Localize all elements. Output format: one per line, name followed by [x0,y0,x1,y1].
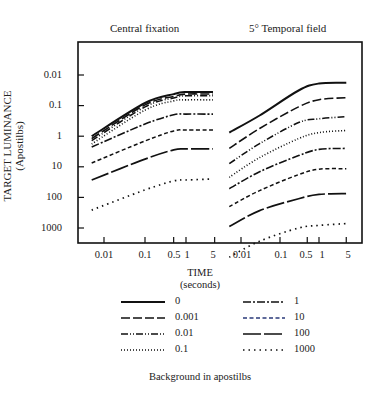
curve-background-1000 [92,179,213,210]
x-tick-label: 0.5 [299,249,312,260]
x-tick-label: 0.1 [138,249,151,260]
legend-label-0-001: 0.001 [175,311,199,322]
y-axis-label-unit: (Apostilbs) [13,71,25,221]
y-tick-label: 1000 [41,222,62,233]
x-tick-label: 5 [210,249,215,260]
x-axis-label: TIME (seconds) [140,267,260,291]
x-tick-label: 1 [184,249,189,260]
x-tick-label: 1 [319,249,324,260]
x-tick-label: 0.1 [274,249,287,260]
y-axis-ticks [78,75,84,228]
legend-title: Background in apostilbs [90,371,310,382]
y-axis-label: TARGET LUMINANCE (Apostilbs) [1,71,25,221]
y-tick-label: 1 [57,130,62,141]
legend-label-1: 1 [294,295,299,306]
x-tick-label: 5 [345,249,350,260]
central-fixation-curves [92,92,213,210]
legend-label-0-1: 0.1 [175,343,188,354]
legend-label-0-01: 0.01 [175,327,193,338]
y-axis-label-main: TARGET LUMINANCE [1,71,13,221]
temporal-field-curves [229,83,346,257]
curve-background-100 [229,194,346,227]
legend-label-0: 0 [175,295,180,306]
curve-background-100 [92,149,213,180]
x-axis-label-main: TIME [140,267,260,279]
x-tick-label: 0.01 [233,249,251,260]
curve-background-0-01 [92,96,213,141]
x-tick-label: 0.5 [167,249,180,260]
plot-frame [78,42,362,243]
legend-label-100: 100 [294,327,310,338]
curve-background-0-1 [229,131,346,178]
curve-background-1 [92,114,213,147]
y-tick-label: 100 [46,191,62,202]
y-tick-label: 0.01 [44,69,62,80]
curve-background-10 [92,130,213,163]
x-tick-label: 0.01 [95,249,113,260]
y-tick-label: 10 [52,160,63,171]
legend-label-1000: 1000 [294,343,315,354]
legend-label-10: 10 [294,311,305,322]
legend-line-samples [121,302,285,350]
x-axis-label-unit: (seconds) [140,279,260,291]
y-tick-label: 0.1 [49,99,62,110]
curve-background-0 [229,83,346,133]
x-axis-ticks [104,237,346,243]
